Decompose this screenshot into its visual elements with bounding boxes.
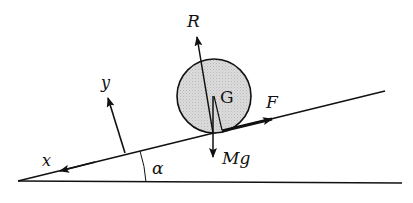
weight-label: Mg (221, 148, 250, 168)
y-axis-arrow (108, 98, 125, 153)
x-axis-label: x (42, 151, 51, 170)
angle-arc (140, 151, 146, 182)
angle-label: α (152, 158, 164, 178)
reaction-label: R (186, 11, 200, 31)
x-axis-arrow (60, 162, 95, 171)
friction-label: F (265, 92, 279, 112)
ground-line (18, 181, 402, 183)
y-axis-label: y (100, 73, 111, 92)
center-of-mass-label: G (220, 87, 234, 107)
physics-diagram: α x y R Mg F G (0, 0, 413, 203)
